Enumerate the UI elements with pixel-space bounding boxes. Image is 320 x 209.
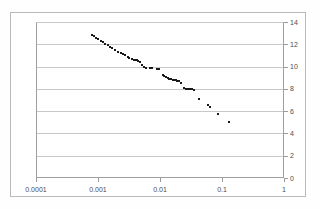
gridline-y-12 — [36, 44, 284, 45]
data-point — [228, 121, 230, 123]
plot-area — [36, 22, 284, 178]
gridline-y-4 — [36, 133, 284, 134]
x-tick-mark-0.1 — [222, 178, 223, 182]
y-tick-mark-12 — [284, 44, 288, 45]
gridline-y-10 — [36, 67, 284, 68]
y-tick-label-14: 14 — [290, 19, 312, 26]
x-tick-label-0.0001: 0.0001 — [16, 186, 56, 193]
y-tick-label-10: 10 — [290, 63, 312, 70]
data-point — [151, 67, 153, 69]
data-point — [209, 106, 211, 108]
x-tick-label-0.001: 0.001 — [78, 186, 118, 193]
data-point — [139, 61, 141, 63]
y-tick-mark-4 — [284, 133, 288, 134]
gridline-y-2 — [36, 156, 284, 157]
x-tick-label-0.1: 0.1 — [202, 186, 242, 193]
x-tick-mark-0.0001 — [36, 178, 37, 182]
x-tick-mark-0.01 — [160, 178, 161, 182]
x-tick-mark-0.001 — [98, 178, 99, 182]
data-point — [217, 113, 219, 115]
y-tick-label-4: 4 — [290, 130, 312, 137]
y-tick-label-8: 8 — [290, 85, 312, 92]
data-point — [100, 40, 102, 42]
data-point — [145, 67, 147, 69]
x-tick-mark-1 — [284, 178, 285, 182]
data-point — [114, 49, 116, 51]
x-tick-label-1: 1 — [264, 186, 304, 193]
y-tick-mark-10 — [284, 67, 288, 68]
data-point — [158, 68, 160, 70]
y-tick-mark-8 — [284, 89, 288, 90]
y-tick-label-0: 0 — [290, 175, 312, 182]
y-tick-label-2: 2 — [290, 152, 312, 159]
data-point — [128, 57, 130, 59]
data-point — [198, 98, 200, 100]
gridline-y-6 — [36, 111, 284, 112]
gridline-y-14 — [36, 22, 284, 23]
plot-frame — [36, 22, 284, 178]
y-tick-label-6: 6 — [290, 108, 312, 115]
y-tick-mark-2 — [284, 156, 288, 157]
data-point — [193, 89, 195, 91]
data-point — [117, 51, 119, 53]
y-tick-label-12: 12 — [290, 41, 312, 48]
data-point — [111, 47, 113, 49]
x-tick-label-0.01: 0.01 — [140, 186, 180, 193]
y-tick-mark-6 — [284, 111, 288, 112]
gridline-y-8 — [36, 89, 284, 90]
y-tick-mark-14 — [284, 22, 288, 23]
data-point — [180, 82, 182, 84]
scatter-plot-figure: 02468101214 0.00010.0010.010.11 — [0, 0, 320, 209]
